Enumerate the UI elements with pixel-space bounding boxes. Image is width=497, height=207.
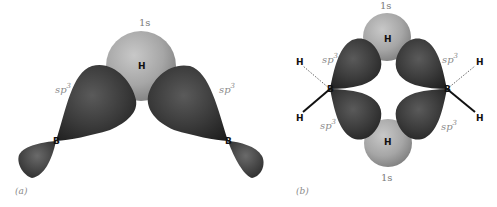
left-boron-label: B xyxy=(53,136,60,146)
panel-a-label: (a) xyxy=(15,186,28,196)
bottom-right-sp3-label: sp3 xyxy=(441,119,458,132)
right-boron-label: B xyxy=(444,84,451,94)
bottom-left-sp3-lobe xyxy=(330,89,381,140)
bond-right-top-dashed xyxy=(447,66,475,89)
top-right-sp3-label: sp3 xyxy=(442,52,459,65)
left-sp3-label: sp3 xyxy=(55,82,72,95)
bond-left-bottom-wedge xyxy=(303,89,330,112)
top-left-sp3-lobe xyxy=(330,38,381,89)
bond-right-bottom-wedge xyxy=(447,89,475,112)
bottom-right-sp3-lobe xyxy=(396,89,447,140)
right-boron-label: B xyxy=(225,136,232,146)
s-orbital-label: 1s xyxy=(139,17,151,28)
diborane-orbital-diagram: 1s H sp3 sp3 B B (a) 1s 1s H H xyxy=(0,0,497,207)
right-back-lobe xyxy=(228,141,264,178)
top-right-sp3-lobe xyxy=(396,38,447,89)
bottom-left-sp3-label: sp3 xyxy=(320,118,337,131)
bond-left-top-dashed xyxy=(303,66,330,89)
terminal-h-bottom-left: H xyxy=(296,113,304,123)
bottom-s-orbital-label: 1s xyxy=(381,172,393,183)
top-left-sp3-label: sp3 xyxy=(322,52,339,65)
terminal-h-top-left: H xyxy=(296,57,304,67)
terminal-h-top-right: H xyxy=(476,57,484,67)
top-bridging-h-label: H xyxy=(384,34,392,44)
panel-b: 1s 1s H H sp3 sp3 sp3 sp3 H H H H B B (b… xyxy=(296,0,484,196)
left-back-lobe xyxy=(18,141,56,178)
left-boron-label: B xyxy=(327,84,334,94)
right-sp3-label: sp3 xyxy=(219,82,236,95)
bottom-bridging-h-label: H xyxy=(384,137,392,147)
top-s-orbital-label: 1s xyxy=(380,0,392,11)
terminal-h-bottom-right: H xyxy=(476,113,484,123)
bridging-h-label: H xyxy=(138,61,146,71)
panel-b-label: (b) xyxy=(296,186,309,196)
right-sp3-lobe xyxy=(148,65,228,141)
panel-a: 1s H sp3 sp3 B B (a) xyxy=(15,17,264,196)
